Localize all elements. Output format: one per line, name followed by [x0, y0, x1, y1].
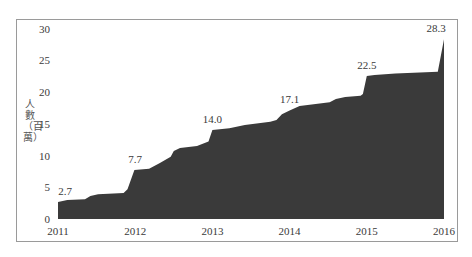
y-tick-label: 20 — [39, 86, 51, 98]
data-label: 14.0 — [203, 113, 223, 125]
x-tick-label: 2012 — [124, 225, 146, 237]
data-label: 28.3 — [426, 22, 446, 34]
data-label: 22.5 — [357, 59, 377, 71]
area-fill — [58, 39, 444, 219]
y-tick-label: 5 — [45, 181, 51, 193]
y-axis-ticks: 051015202530 — [39, 23, 51, 226]
x-tick-label: 2013 — [201, 225, 224, 237]
y-tick-label: 30 — [39, 23, 51, 35]
x-axis-ticks: 201120122013201420152016 — [47, 225, 455, 237]
area-chart: 051015202530 201120122013201420152016 2.… — [0, 0, 472, 257]
x-tick-label: 2014 — [279, 225, 302, 237]
x-tick-label: 2016 — [433, 225, 456, 237]
x-tick-label: 2011 — [47, 225, 69, 237]
y-tick-label: 10 — [39, 150, 51, 162]
x-tick-label: 2015 — [356, 225, 379, 237]
y-tick-label: 0 — [45, 213, 51, 225]
y-tick-label: 15 — [39, 118, 51, 130]
area-series — [58, 39, 444, 219]
data-label: 2.7 — [58, 185, 72, 197]
y-tick-label: 25 — [39, 54, 51, 66]
data-label: 7.7 — [128, 153, 142, 165]
data-label: 17.1 — [280, 93, 299, 105]
